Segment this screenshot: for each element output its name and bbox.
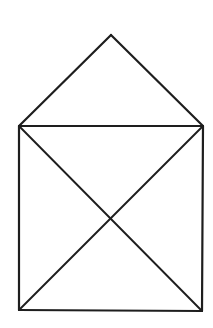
- roof-left-line: [19, 35, 111, 126]
- roof-right-line: [111, 35, 203, 126]
- diagram-edges: [19, 35, 203, 311]
- square-bottom-line: [19, 310, 202, 311]
- house-diagram: [0, 0, 213, 328]
- square-right-line: [202, 126, 203, 311]
